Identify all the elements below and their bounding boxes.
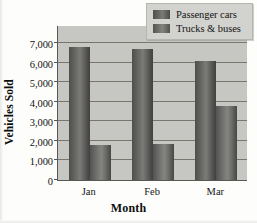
chart-legend: Passenger carsTrucks & buses xyxy=(146,3,253,40)
bar-jan-trucks-buses xyxy=(90,145,111,180)
y-axis-tick-label: 4,000 xyxy=(30,97,53,108)
x-axis-tick-label-mar: Mar xyxy=(207,186,225,197)
x-axis-title: Month xyxy=(0,201,257,216)
y-axis-tick-label: 6,000 xyxy=(30,58,53,69)
legend-item-trucks-buses: Trucks & buses xyxy=(153,21,247,35)
y-axis-tick xyxy=(54,62,58,63)
y-axis-tick xyxy=(54,120,58,121)
bar-jan-passenger-cars xyxy=(69,47,90,180)
y-axis-tick-label: 5,000 xyxy=(30,78,53,89)
bar-chart: Vehicles Sold 7,0006,0005,0004,0003,0002… xyxy=(0,0,257,223)
bar-feb-passenger-cars xyxy=(132,49,153,180)
y-axis-title: Vehicles Sold xyxy=(3,79,15,145)
y-axis-tick xyxy=(54,42,58,43)
y-axis-tick xyxy=(54,101,58,102)
legend-swatch-icon xyxy=(153,10,170,19)
legend-label: Trucks & buses xyxy=(176,23,241,34)
y-axis-tick-label: 0 xyxy=(48,176,53,187)
x-axis-tick-label-feb: Feb xyxy=(144,186,160,197)
bar-mar-passenger-cars xyxy=(195,61,216,180)
gridline xyxy=(58,42,247,43)
scan-edge-bottom xyxy=(0,220,257,223)
x-axis-tick-label-jan: Jan xyxy=(82,186,96,197)
bar-feb-trucks-buses xyxy=(153,144,174,180)
y-axis-tick xyxy=(54,159,58,160)
legend-swatch-icon xyxy=(153,24,170,33)
y-axis-tick xyxy=(54,81,58,82)
y-axis-tick-label: 1,000 xyxy=(30,156,53,167)
y-axis-tick xyxy=(54,140,58,141)
plot-area xyxy=(57,26,247,181)
legend-item-passenger-cars: Passenger cars xyxy=(153,7,247,21)
y-axis-tick xyxy=(54,179,58,180)
bar-mar-trucks-buses xyxy=(216,106,237,180)
y-axis-tick-label: 2,000 xyxy=(30,136,53,147)
y-axis-tick-label: 7,000 xyxy=(30,39,53,50)
legend-label: Passenger cars xyxy=(176,9,237,20)
y-axis-tick-label: 3,000 xyxy=(30,117,53,128)
